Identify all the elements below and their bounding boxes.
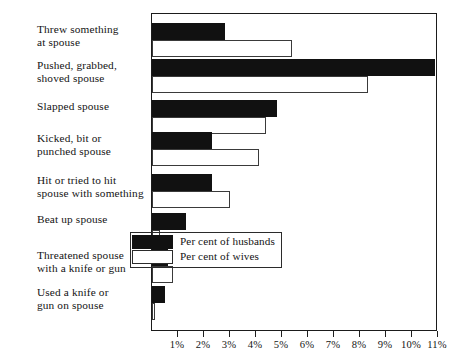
- bar-wives: [152, 40, 292, 57]
- x-axis-tick-label: 3%: [222, 339, 237, 351]
- x-axis-tick: [177, 331, 178, 337]
- x-axis-tick-label: 4%: [248, 339, 263, 351]
- legend-swatch-husbands: [132, 235, 173, 249]
- legend-label: Per cent of wives: [180, 250, 259, 263]
- legend-label: Per cent of husbands: [180, 235, 275, 248]
- x-axis-tick: [203, 331, 204, 337]
- x-axis-tick-label: 6%: [300, 339, 315, 351]
- x-axis-tick-label: 9%: [378, 339, 393, 351]
- chart-legend: Per cent of husbandsPer cent of wives: [132, 234, 275, 264]
- x-axis-tick: [385, 331, 386, 337]
- category-label: Beat up spouse: [37, 213, 149, 226]
- bar-wives: [152, 266, 173, 283]
- x-axis-tick-label: 11%: [427, 339, 447, 351]
- bar-husbands: [152, 174, 212, 191]
- x-axis-tick: [359, 331, 360, 337]
- x-axis-tick: [255, 331, 256, 337]
- bar-husbands: [152, 100, 277, 117]
- legend-entry: Per cent of husbands: [132, 234, 275, 249]
- legend-swatch-wives: [132, 250, 173, 264]
- x-axis-tick-label: 1%: [170, 339, 185, 351]
- category-label: Threw something at spouse: [37, 23, 149, 49]
- bar-wives: [152, 191, 230, 208]
- category-label: Used a knife or gun on spouse: [37, 286, 149, 312]
- bar-wives: [152, 303, 155, 320]
- x-axis-tick-label: 7%: [326, 339, 341, 351]
- bar-husbands: [152, 23, 225, 40]
- category-label: Kicked, bit or punched spouse: [37, 132, 149, 158]
- category-label-column: Threw something at spousePushed, grabbed…: [0, 0, 150, 363]
- x-axis-tick: [333, 331, 334, 337]
- x-axis-tick: [229, 331, 230, 337]
- x-axis-tick-label: 8%: [352, 339, 367, 351]
- bar-chart: Threw something at spousePushed, grabbed…: [0, 0, 457, 363]
- bar-husbands: [152, 132, 212, 149]
- x-axis-tick-label: 5%: [274, 339, 289, 351]
- bars-layer: [152, 14, 436, 330]
- category-label: Pushed, grabbed, shoved spouse: [37, 59, 149, 85]
- legend-entry: Per cent of wives: [132, 249, 275, 264]
- bar-husbands: [152, 59, 435, 76]
- x-axis-tick-label: 2%: [196, 339, 211, 351]
- plot-area: [151, 13, 437, 331]
- x-axis-tick: [437, 331, 438, 337]
- bar-husbands: [152, 213, 186, 230]
- x-axis-tick-label: 10%: [401, 339, 421, 351]
- category-label: Slapped spouse: [37, 100, 149, 113]
- bar-wives: [152, 149, 259, 166]
- x-axis-tick: [411, 331, 412, 337]
- category-label: Hit or tried to hit spouse with somethin…: [37, 174, 149, 200]
- x-axis-tick: [281, 331, 282, 337]
- bar-husbands: [152, 286, 165, 303]
- bar-wives: [152, 76, 368, 93]
- x-axis-tick: [307, 331, 308, 337]
